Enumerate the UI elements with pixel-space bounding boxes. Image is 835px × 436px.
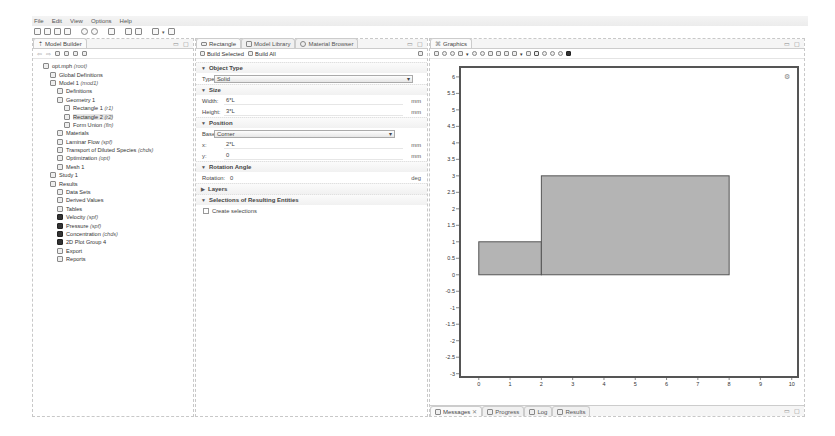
- show-all-icon[interactable]: [558, 51, 563, 56]
- rotate-icon[interactable]: [450, 51, 455, 56]
- tab-results[interactable]: Results: [552, 406, 590, 416]
- section-size[interactable]: ▼Size: [196, 84, 427, 95]
- select-box-icon[interactable]: [526, 51, 531, 56]
- tab-rectangle[interactable]: Rectangle: [196, 38, 241, 48]
- tree-item[interactable]: Materials: [39, 129, 193, 137]
- tab-material-browser[interactable]: Material Browser: [295, 38, 358, 48]
- menu-options[interactable]: Options: [91, 18, 112, 24]
- menu-edit[interactable]: Edit: [52, 18, 62, 24]
- tree-item[interactable]: Study 1: [39, 171, 193, 179]
- minimize-maximize-buttons[interactable]: ▭ ▢: [784, 407, 801, 414]
- geometry-rectangle-r1[interactable]: [479, 242, 542, 275]
- width-input[interactable]: 6*L: [224, 96, 403, 105]
- tree-item[interactable]: Definitions: [39, 87, 193, 95]
- tree-item[interactable]: Optimization (opt): [39, 154, 193, 162]
- checkbox-box[interactable]: [203, 208, 209, 214]
- view-icon[interactable]: [442, 51, 447, 56]
- camera-icon[interactable]: [566, 51, 571, 56]
- tree-item[interactable]: opt.mph (root): [39, 62, 193, 70]
- tree-item[interactable]: Rectangle 1 (r1): [39, 104, 193, 112]
- tree-item[interactable]: Tables: [39, 205, 193, 213]
- zoom-extents-icon[interactable]: [496, 51, 501, 56]
- tree-item[interactable]: Concentration (chds): [39, 230, 193, 238]
- print-icon[interactable]: [64, 28, 71, 35]
- tree-item[interactable]: Rectangle 2 (r2): [39, 112, 193, 120]
- tree-item[interactable]: Form Union (fin): [39, 121, 193, 129]
- height-input[interactable]: 3*L: [224, 107, 403, 116]
- scene-light-icon[interactable]: [458, 51, 463, 56]
- tree-item[interactable]: Data Sets: [39, 188, 193, 196]
- x-input[interactable]: 2*L: [224, 140, 403, 149]
- section-position[interactable]: ▼Position: [196, 117, 427, 128]
- back-icon[interactable]: ⇦: [37, 50, 42, 57]
- section-rotation-angle[interactable]: ▼Rotation Angle: [196, 161, 427, 172]
- layout-icon[interactable]: [125, 28, 132, 35]
- wireframe-icon[interactable]: [534, 51, 539, 56]
- build-all-button[interactable]: Build All: [248, 51, 276, 57]
- hide-icon[interactable]: [550, 51, 555, 56]
- zoom-selected-icon[interactable]: [504, 51, 509, 56]
- tree-item[interactable]: Mesh 1: [39, 163, 193, 171]
- tree-item[interactable]: Global Definitions: [39, 70, 193, 78]
- transparency-icon[interactable]: [542, 51, 547, 56]
- open-icon[interactable]: [44, 28, 51, 35]
- tab-progress[interactable]: Progress: [482, 406, 524, 416]
- tree-item[interactable]: Geometry 1: [39, 96, 193, 104]
- save-icon[interactable]: [54, 28, 61, 35]
- tree-item[interactable]: Reports: [39, 255, 193, 263]
- show-icon[interactable]: [55, 51, 60, 56]
- base-select[interactable]: Corner▾: [214, 130, 395, 138]
- expand-icon[interactable]: [73, 51, 78, 56]
- dropdown-icon[interactable]: ▾: [520, 51, 523, 57]
- type-select[interactable]: Solid▾: [214, 75, 413, 83]
- rotation-input[interactable]: 0: [228, 173, 403, 182]
- minimize-maximize-buttons[interactable]: ▭ ▢: [784, 40, 801, 47]
- tab-model-builder[interactable]: ⇡ Model Builder: [33, 38, 87, 48]
- create-selections-checkbox[interactable]: Create selections: [196, 205, 427, 216]
- menu-view[interactable]: View: [70, 18, 83, 24]
- geometry-canvas[interactable]: 65.554.543.532.521.510.50-0.5-1-1.5-2-2.…: [430, 59, 804, 394]
- dropdown-icon[interactable]: ▾: [466, 51, 469, 57]
- tab-messages[interactable]: Messages✕: [430, 406, 482, 416]
- settings-icon[interactable]: [108, 28, 115, 35]
- brush-icon[interactable]: [152, 28, 159, 35]
- build-selected-button[interactable]: Build Selected: [200, 51, 244, 57]
- tree-item[interactable]: 2D Plot Group 4: [39, 238, 193, 246]
- new-icon[interactable]: [34, 28, 41, 35]
- window-icon[interactable]: [135, 28, 142, 35]
- zoom-in-icon[interactable]: [472, 51, 477, 56]
- dropdown-icon[interactable]: ▾: [162, 29, 165, 35]
- section-layers[interactable]: ▶Layers: [196, 183, 427, 194]
- menu-file[interactable]: File: [34, 18, 44, 24]
- tree-options-icon[interactable]: [82, 51, 87, 56]
- minimize-maximize-buttons[interactable]: ▭ ▢: [173, 40, 190, 47]
- tab-graphics[interactable]: ⌘ Graphics: [430, 38, 472, 48]
- settings-options-icon[interactable]: [418, 51, 423, 56]
- tab-log[interactable]: Log: [524, 406, 552, 416]
- tree-item[interactable]: Transport of Diluted Species (chds): [39, 146, 193, 154]
- tree-item[interactable]: Model 1 (mod1): [39, 79, 193, 87]
- y-input[interactable]: 0: [224, 151, 403, 160]
- tree-item[interactable]: Laminar Flow (spf): [39, 138, 193, 146]
- axis-icon[interactable]: [512, 51, 517, 56]
- tree-item[interactable]: Pressure (spf): [39, 221, 193, 229]
- redo-icon[interactable]: [91, 28, 98, 35]
- minimize-maximize-buttons[interactable]: ▭ ▢: [407, 40, 424, 47]
- section-selections[interactable]: ▼Selections of Resulting Entities: [196, 194, 427, 205]
- tree-item[interactable]: Results: [39, 179, 193, 187]
- tab-model-library[interactable]: Model Library: [241, 38, 295, 48]
- section-object-type[interactable]: ▼Object Type: [196, 62, 427, 73]
- forward-icon[interactable]: ⇨: [46, 50, 51, 57]
- tree-item[interactable]: Export: [39, 247, 193, 255]
- tree-item[interactable]: Velocity (spf): [39, 213, 193, 221]
- close-icon[interactable]: ✕: [472, 408, 477, 415]
- select-icon[interactable]: [434, 51, 439, 56]
- collapse-icon[interactable]: [64, 51, 69, 56]
- zoom-box-icon[interactable]: [488, 51, 493, 56]
- tree-item[interactable]: Derived Values: [39, 196, 193, 204]
- undo-icon[interactable]: [81, 28, 88, 35]
- grid-icon[interactable]: [168, 28, 175, 35]
- geometry-rectangle-r2[interactable]: [541, 176, 729, 275]
- zoom-out-icon[interactable]: [480, 51, 485, 56]
- menu-help[interactable]: Help: [120, 18, 132, 24]
